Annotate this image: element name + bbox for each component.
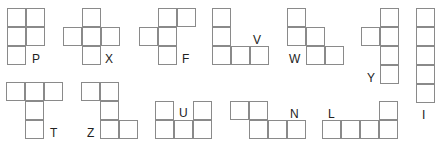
pentomino-cell bbox=[379, 120, 398, 139]
pentomino-cell bbox=[416, 84, 435, 103]
pentomino-cell bbox=[287, 27, 306, 46]
pentomino-cell bbox=[380, 46, 399, 65]
pentomino-cell bbox=[360, 120, 379, 139]
pentomino-cell bbox=[25, 82, 44, 101]
pentomino-cell bbox=[416, 65, 435, 84]
pentomino-cell bbox=[416, 27, 435, 46]
pentomino-cell bbox=[82, 27, 101, 46]
pentomino-cell bbox=[155, 101, 174, 120]
pentomino-cell bbox=[212, 46, 231, 65]
pentomino-label: P bbox=[32, 53, 40, 65]
pentomino-cell bbox=[416, 46, 435, 65]
pentomino-cell bbox=[212, 8, 231, 27]
pentomino-cell bbox=[249, 120, 268, 139]
pentomino-cell bbox=[100, 82, 119, 101]
pentomino-cell bbox=[193, 101, 212, 120]
pentomino-cell bbox=[325, 46, 344, 65]
pentomino-cell bbox=[231, 46, 250, 65]
pentomino-cell bbox=[81, 82, 100, 101]
pentomino-cell bbox=[158, 8, 177, 27]
pentomino-cell bbox=[7, 46, 26, 65]
pentomino-label: L bbox=[328, 108, 335, 120]
pentomino-label: F bbox=[182, 53, 189, 65]
pentomino-cell bbox=[63, 27, 82, 46]
pentomino-label: N bbox=[290, 108, 299, 120]
pentomino-cell bbox=[100, 101, 119, 120]
pentomino-cell bbox=[7, 27, 26, 46]
pentomino-cell bbox=[193, 120, 212, 139]
pentomino-cell bbox=[287, 8, 306, 27]
pentomino-cell bbox=[250, 46, 269, 65]
pentomino-cell bbox=[230, 101, 249, 120]
pentomino-cell bbox=[416, 8, 435, 27]
pentomino-cell bbox=[82, 46, 101, 65]
pentomino-cell bbox=[82, 8, 101, 27]
pentomino-cell bbox=[212, 27, 231, 46]
pentomino-cell bbox=[361, 27, 380, 46]
pentomino-label: Z bbox=[87, 127, 94, 139]
pentomino-cell bbox=[158, 27, 177, 46]
pentomino-cell bbox=[119, 120, 138, 139]
pentomino-cell bbox=[174, 120, 193, 139]
pentomino-cell bbox=[26, 8, 45, 27]
pentomino-label: V bbox=[253, 34, 261, 46]
pentomino-cell bbox=[380, 8, 399, 27]
pentomino-cell bbox=[268, 120, 287, 139]
pentomino-cell bbox=[322, 120, 341, 139]
pentomino-cell bbox=[25, 101, 44, 120]
pentomino-cell bbox=[6, 82, 25, 101]
pentomino-cell bbox=[100, 120, 119, 139]
pentomino-cell bbox=[341, 120, 360, 139]
pentomino-cell bbox=[26, 27, 45, 46]
pentomino-cell bbox=[158, 46, 177, 65]
pentomino-cell bbox=[44, 82, 63, 101]
pentomino-label: T bbox=[50, 127, 57, 139]
pentomino-cell bbox=[25, 120, 44, 139]
pentomino-cell bbox=[7, 8, 26, 27]
pentomino-cell bbox=[249, 101, 268, 120]
pentomino-label: I bbox=[422, 109, 425, 121]
pentomino-cell bbox=[380, 27, 399, 46]
pentomino-cell bbox=[306, 27, 325, 46]
pentomino-label: X bbox=[105, 53, 113, 65]
pentomino-cell bbox=[101, 27, 120, 46]
pentomino-label: Y bbox=[367, 72, 375, 84]
pentomino-cell bbox=[139, 27, 158, 46]
pentomino-cell bbox=[380, 65, 399, 84]
pentomino-cell bbox=[155, 120, 174, 139]
pentomino-label: W bbox=[289, 53, 300, 65]
pentomino-cell bbox=[287, 120, 306, 139]
pentomino-cell bbox=[379, 101, 398, 120]
pentomino-label: U bbox=[179, 107, 188, 119]
pentomino-cell bbox=[177, 8, 196, 27]
pentomino-cell bbox=[306, 46, 325, 65]
